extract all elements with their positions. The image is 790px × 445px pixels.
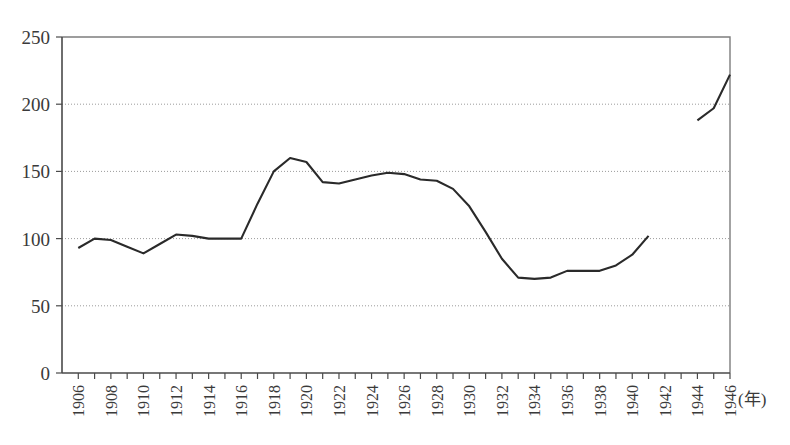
x-tick-label-1908: 1908 [103,385,120,417]
x-tick-label-1934: 1934 [526,385,543,417]
x-tick-label-1942: 1942 [657,385,674,417]
x-tick-label-1938: 1938 [592,385,609,417]
x-tick-label-1910: 1910 [135,385,152,417]
x-tick-label-1930: 1930 [461,385,478,417]
x-tick-label-1916: 1916 [233,385,250,417]
plot-frame [62,37,730,373]
x-tick-label-1912: 1912 [168,385,185,417]
x-axis-unit-label: (年) [738,390,766,409]
x-tick-label-1906: 1906 [70,385,87,417]
y-tick-label-250: 250 [22,27,51,48]
series-line-index-postwar [697,75,730,121]
x-tick-label-1946: 1946 [722,385,739,417]
x-tick-label-1922: 1922 [331,385,348,417]
x-tick-label-1944: 1944 [689,385,706,417]
x-tick-label-1918: 1918 [266,385,283,417]
y-tick-label-200: 200 [22,94,51,115]
x-tick-label-1924: 1924 [364,385,381,417]
y-tick-label-0: 0 [41,363,51,384]
x-tick-label-1928: 1928 [429,385,446,417]
line-chart: 0501001502002501906190819101912191419161… [0,0,790,445]
y-tick-label-100: 100 [22,229,51,250]
x-tick-label-1926: 1926 [396,385,413,417]
x-tick-label-1920: 1920 [298,385,315,417]
y-tick-label-50: 50 [31,296,50,317]
x-tick-label-1914: 1914 [201,385,218,417]
x-tick-label-1936: 1936 [559,385,576,417]
chart-canvas: 0501001502002501906190819101912191419161… [0,0,790,445]
x-tick-label-1940: 1940 [624,385,641,417]
series-line-index [78,158,648,279]
y-tick-label-150: 150 [22,161,51,182]
x-tick-label-1932: 1932 [494,385,511,417]
